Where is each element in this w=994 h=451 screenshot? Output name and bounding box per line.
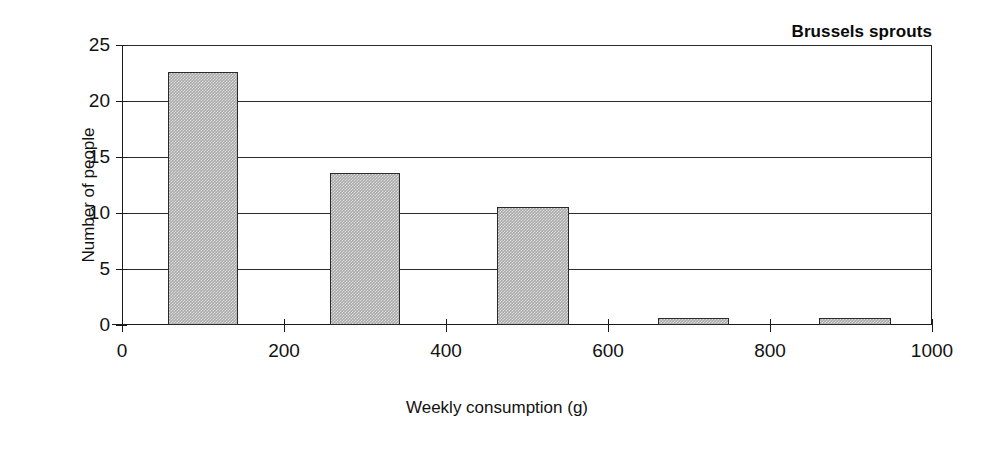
x-axis-tick-label: 800 <box>754 340 786 362</box>
x-axis-title: Weekly consumption (g) <box>0 398 994 418</box>
x-axis-tick-label: 0 <box>117 340 128 362</box>
y-axis-tick-label: 10 <box>68 202 110 224</box>
y-axis-tick <box>116 45 127 46</box>
x-axis-tick-label: 200 <box>268 340 300 362</box>
bar <box>658 318 728 325</box>
x-axis-tick <box>770 319 771 332</box>
bar <box>168 72 238 325</box>
y-axis-tick <box>116 157 127 158</box>
plot-right-border <box>931 45 932 325</box>
x-axis-tick <box>932 319 933 332</box>
y-axis-tick <box>116 213 127 214</box>
x-axis-tick <box>446 319 447 332</box>
bar <box>819 318 891 325</box>
x-axis-tick-label: 1000 <box>911 340 953 362</box>
chart-figure: Brussels sprouts Number of people 051015… <box>0 0 994 451</box>
x-axis-tick-label: 600 <box>592 340 624 362</box>
y-axis-tick-label: 0 <box>68 314 110 336</box>
x-axis-tick <box>122 319 123 332</box>
x-axis-tick <box>284 319 285 332</box>
y-axis-labels: Number of people 0510152025 <box>60 0 110 451</box>
y-axis-tick <box>116 269 127 270</box>
y-axis-tick-label: 25 <box>68 34 110 56</box>
gridline <box>122 45 932 46</box>
y-axis-tick <box>116 101 127 102</box>
gridline <box>122 157 932 158</box>
x-axis-tick <box>608 319 609 332</box>
y-axis-line <box>122 45 123 325</box>
plot-area <box>122 45 932 325</box>
chart-title: Brussels sprouts <box>792 22 932 42</box>
y-axis-tick-label: 20 <box>68 90 110 112</box>
bar <box>497 207 569 325</box>
gridline <box>122 101 932 102</box>
x-axis-tick-label: 400 <box>430 340 462 362</box>
y-axis-tick-label: 5 <box>68 258 110 280</box>
bar <box>330 173 400 325</box>
y-axis-tick-label: 15 <box>68 146 110 168</box>
